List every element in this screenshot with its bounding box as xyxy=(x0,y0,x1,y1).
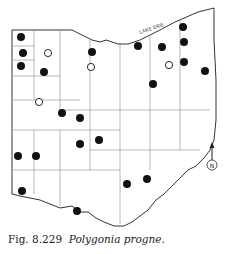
filled-record-dot xyxy=(149,80,157,88)
ohio-county-map: LAKE ERIE N xyxy=(0,0,226,232)
filled-record-dot xyxy=(201,67,209,75)
filled-record-dot xyxy=(180,38,188,46)
svg-text:LAKE ERIE: LAKE ERIE xyxy=(138,21,164,35)
filled-record-dot xyxy=(19,49,27,57)
open-record-dot xyxy=(165,61,172,68)
open-record-dot xyxy=(87,63,94,70)
filled-record-dot xyxy=(180,58,188,66)
filled-record-dot xyxy=(76,114,84,122)
lake-label: LAKE ERIE xyxy=(138,21,164,35)
filled-record-dot xyxy=(88,48,96,56)
svg-text:N: N xyxy=(210,162,215,169)
filled-record-dot xyxy=(179,23,187,31)
open-record-dot xyxy=(35,98,42,105)
filled-record-dot xyxy=(134,42,142,50)
county-lines xyxy=(12,20,210,224)
filled-record-dot xyxy=(17,33,25,41)
filled-record-dot xyxy=(18,187,26,195)
filled-record-dot xyxy=(95,136,103,144)
filled-record-dot xyxy=(123,180,131,188)
filled-record-dot xyxy=(32,152,40,160)
filled-record-dot xyxy=(17,62,25,70)
filled-record-dot xyxy=(158,43,166,51)
filled-record-dot xyxy=(76,140,84,148)
filled-record-dot xyxy=(73,207,81,215)
filled-record-dot xyxy=(40,68,48,76)
species-name: Polygonia progne. xyxy=(69,233,165,245)
filled-record-dot xyxy=(58,109,66,117)
figure-number: Fig. 8.229 xyxy=(8,233,62,245)
north-arrow-icon: N xyxy=(207,142,217,170)
filled-record-dot xyxy=(14,152,22,160)
figure-caption: Fig. 8.229 Polygonia progne. xyxy=(8,233,165,245)
open-record-dot xyxy=(44,49,51,56)
filled-record-dot xyxy=(143,175,151,183)
